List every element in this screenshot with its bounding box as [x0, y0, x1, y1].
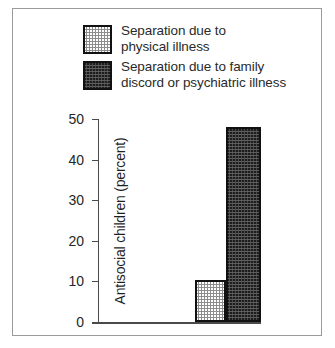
x-axis-line [92, 322, 261, 324]
legend-item: Separation due to physical illness [83, 23, 335, 55]
legend-item: Separation due to family discord or psyc… [83, 59, 335, 91]
y-axis-tick-label: 0 [76, 314, 84, 330]
y-axis-tick-label: 10 [68, 273, 84, 289]
legend: Separation due to physical illness Separ… [83, 23, 335, 95]
y-axis-line [98, 119, 99, 323]
y-axis-tick-label: 50 [68, 111, 84, 127]
y-axis-tick-label: 40 [68, 152, 84, 168]
legend-item-label: Separation due to physical illness [121, 23, 226, 55]
y-axis-tick [92, 119, 98, 120]
y-axis-tick [92, 160, 98, 161]
y-axis-tick [92, 322, 98, 323]
dark-stipple-swatch-icon [83, 61, 112, 90]
y-axis-tick-label: 30 [68, 192, 84, 208]
plot-area: 0 10 20 30 40 50 [98, 119, 261, 322]
y-axis-tick [92, 281, 98, 282]
light-stipple-swatch-icon [83, 25, 112, 54]
y-axis-tick [92, 241, 98, 242]
figure-frame: Separation due to physical illness Separ… [12, 8, 322, 336]
y-axis-title: Antisocial children (percent) [112, 137, 128, 304]
y-axis-tick-label: 20 [68, 233, 84, 249]
bar-family-discord-psychiatric-illness [226, 127, 261, 322]
legend-item-label: Separation due to family discord or psyc… [121, 59, 286, 91]
bar-physical-illness [195, 280, 226, 322]
figure-container: Separation due to physical illness Separ… [0, 0, 335, 348]
y-axis-tick [92, 200, 98, 201]
